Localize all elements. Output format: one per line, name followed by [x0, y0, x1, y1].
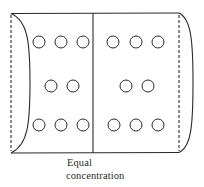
- cylinder-diagram: [0, 0, 204, 187]
- solute-particle-icon: [55, 119, 67, 131]
- solute-particle-icon: [77, 36, 89, 48]
- caption-line-concentration: concentration: [66, 171, 124, 182]
- solute-particle-icon: [33, 119, 45, 131]
- solute-particle-icon: [120, 80, 132, 92]
- cylinder-bottom-edge: [11, 153, 179, 154]
- solute-particle-icon: [55, 36, 67, 48]
- solute-particle-icon: [67, 80, 79, 92]
- solute-particle-icon: [45, 80, 57, 92]
- left-compartment-particles: [33, 36, 89, 131]
- solute-particle-icon: [107, 36, 119, 48]
- left-end-arc: [11, 14, 30, 154]
- right-compartment-particles: [107, 36, 164, 131]
- solute-particle-icon: [142, 80, 154, 92]
- solute-particle-icon: [152, 36, 164, 48]
- solute-particle-icon: [152, 119, 164, 131]
- cylinder-top-edge: [11, 13, 179, 14]
- solute-particle-icon: [130, 36, 142, 48]
- solute-particle-icon: [130, 119, 142, 131]
- solute-particle-icon: [108, 119, 120, 131]
- cylinder-outline: [11, 13, 193, 153]
- solute-particle-icon: [33, 36, 45, 48]
- caption-line-equal: Equal: [67, 158, 92, 169]
- right-end-arc: [179, 13, 193, 153]
- solute-particle-icon: [77, 119, 89, 131]
